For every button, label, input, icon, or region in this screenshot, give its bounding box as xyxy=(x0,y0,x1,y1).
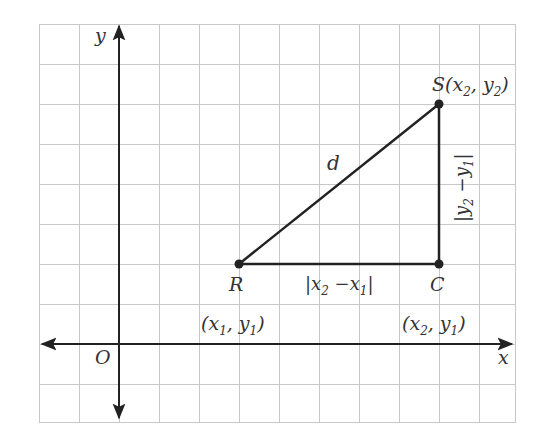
point-R xyxy=(235,260,244,269)
hypotenuse-label: d xyxy=(327,151,340,175)
vertical-length-label: |y2 −y1| xyxy=(451,153,476,222)
point-S-label: S(x2, y2) xyxy=(432,73,509,99)
point-S xyxy=(435,100,444,109)
origin-label: O xyxy=(95,346,111,368)
point-R-coords: (x1, y1) xyxy=(201,312,265,338)
point-R-label: R xyxy=(228,273,243,295)
horizontal-length-label: |x2 −x1| xyxy=(305,273,374,298)
y-axis-label: y xyxy=(94,24,106,46)
point-C xyxy=(435,260,444,269)
distance-diagram: x y O d |x2 −x1| |y2 −y1| S(x2, y2) R (x… xyxy=(0,0,544,436)
point-C-label: C xyxy=(430,273,445,295)
point-C-coords: (x2, y1) xyxy=(402,312,466,338)
x-axis-label: x xyxy=(498,346,509,368)
